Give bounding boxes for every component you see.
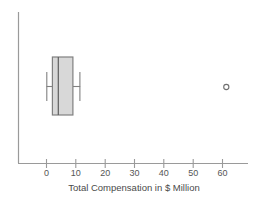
- tick-label-0: 0: [44, 168, 49, 178]
- tick-label-10: 10: [71, 168, 81, 178]
- tick-label-20: 20: [100, 168, 110, 178]
- tick-label-40: 40: [159, 168, 169, 178]
- x-axis-title: Total Compensation in $ Million: [68, 182, 199, 193]
- tick-label-60: 60: [217, 168, 227, 178]
- tick-label-50: 50: [188, 168, 198, 178]
- box-plot-canvas: 0 10 20 30 40 50 60 Total Comp: [0, 0, 268, 203]
- tick-label-30: 30: [129, 168, 139, 178]
- box-plot-figure: 0 10 20 30 40 50 60 Total Comp: [0, 0, 268, 203]
- iqr-box: [52, 57, 73, 115]
